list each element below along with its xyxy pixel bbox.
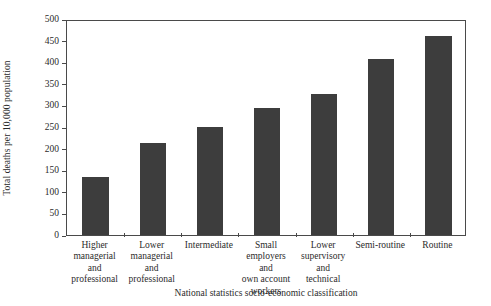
y-tick-mark	[62, 20, 66, 21]
x-category-label-line: Intermediate	[180, 240, 237, 251]
x-category-label-line: Routine	[409, 240, 466, 251]
y-tick-mark	[62, 192, 66, 193]
x-tick-mark	[181, 233, 182, 237]
y-tick-label: 500	[45, 13, 59, 26]
plot-area	[66, 20, 466, 236]
x-category-label-line: managerial	[66, 251, 123, 262]
x-category-label: Routine	[409, 240, 466, 251]
x-category-label-line: Lower	[295, 240, 352, 251]
bar	[254, 108, 280, 235]
y-axis-title: Total deaths per 10,000 population	[2, 20, 18, 236]
x-category-label-line: managerial	[123, 251, 180, 262]
x-axis-category-labels: HighermanagerialandprofessionalLowermana…	[66, 240, 466, 286]
x-category-label-line: and	[66, 263, 123, 274]
x-category-label: Lowermanagerialandprofessional	[123, 240, 180, 286]
x-category-label-line: own account	[237, 274, 294, 285]
y-tick-label: 0	[54, 229, 59, 242]
x-category-label-line: Small employers	[237, 240, 294, 263]
y-tick-mark	[62, 236, 66, 237]
x-category-label-line: and	[123, 263, 180, 274]
bar	[425, 36, 451, 235]
x-category-label-line: supervisory	[295, 251, 352, 262]
y-tick-mark	[62, 128, 66, 129]
x-category-label: Lowersupervisoryandtechnical	[295, 240, 352, 286]
bar-chart-figure: Total deaths per 10,000 population 05010…	[0, 0, 491, 306]
x-category-label: Semi-routine	[352, 240, 409, 251]
y-tick-label: 300	[45, 99, 59, 112]
x-tick-mark	[238, 233, 239, 237]
y-tick-label: 400	[45, 56, 59, 69]
x-category-label-line: and	[237, 263, 294, 274]
x-category-label-line: professional	[66, 274, 123, 285]
x-category-label-line: technical	[295, 274, 352, 285]
x-tick-mark	[410, 233, 411, 237]
y-tick-mark	[62, 149, 66, 150]
y-tick-label: 200	[45, 143, 59, 156]
bar	[197, 127, 223, 235]
y-tick-mark	[62, 84, 66, 85]
x-category-label-line: Lower	[123, 240, 180, 251]
bar	[82, 177, 108, 235]
x-tick-mark	[124, 233, 125, 237]
y-tick-label: 50	[50, 207, 60, 220]
y-tick-mark	[62, 63, 66, 64]
bars-layer	[67, 21, 465, 235]
x-category-label-line: and	[295, 263, 352, 274]
bar	[368, 59, 394, 235]
x-category-label-line: professional	[123, 274, 180, 285]
x-category-label: Highermanagerialandprofessional	[66, 240, 123, 286]
x-tick-mark	[296, 233, 297, 237]
x-axis-title: National statistics socio-economic class…	[66, 288, 466, 298]
x-category-label-line: Higher	[66, 240, 123, 251]
x-tick-mark	[353, 233, 354, 237]
y-tick-label: 350	[45, 78, 59, 91]
y-tick-label: 100	[45, 186, 59, 199]
y-tick-label: 250	[45, 121, 59, 134]
y-tick-mark	[62, 106, 66, 107]
x-category-label-line: Semi-routine	[352, 240, 409, 251]
bar	[311, 94, 337, 235]
plot-inner	[67, 21, 465, 235]
y-tick-mark	[62, 41, 66, 42]
y-tick-mark	[62, 214, 66, 215]
bar	[140, 143, 166, 235]
x-category-label: Intermediate	[180, 240, 237, 251]
y-tick-label: 450	[45, 35, 59, 48]
y-tick-mark	[62, 171, 66, 172]
y-tick-label: 150	[45, 164, 59, 177]
